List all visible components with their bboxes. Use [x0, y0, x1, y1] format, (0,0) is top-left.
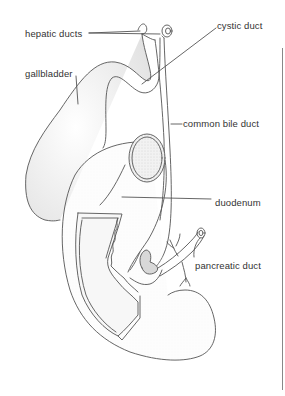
page-edge-divider	[282, 48, 283, 390]
pancreatic-duct-leader	[194, 238, 200, 257]
label-common-bile-duct: common bile duct	[183, 119, 259, 129]
label-hepatic-ducts: hepatic ducts	[25, 29, 82, 39]
cystic-duct-leader	[142, 28, 216, 84]
hepatic-ducts-leader	[89, 31, 160, 34]
biliary-anatomy-diagram: hepatic ducts cystic duct gallbladder co…	[0, 0, 285, 396]
hepatic-duct-left	[138, 24, 147, 34]
label-duodenum: duodenum	[215, 198, 261, 208]
duodenum-lumen-opening	[129, 134, 165, 182]
label-gallbladder: gallbladder	[25, 69, 73, 79]
label-pancreatic-duct: pancreatic duct	[195, 261, 261, 271]
label-cystic-duct: cystic duct	[217, 21, 262, 31]
